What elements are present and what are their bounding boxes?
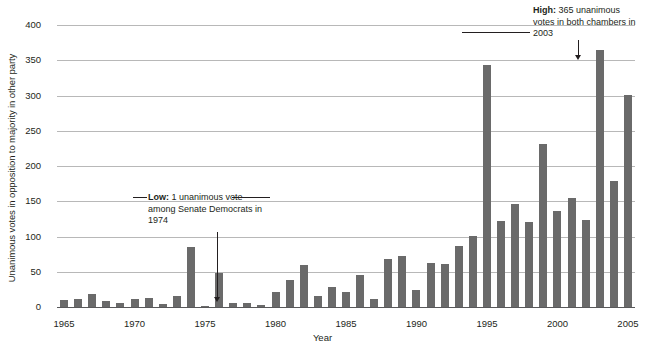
bar-1966 [74,299,82,307]
gridline-0 [57,307,635,308]
bar-1965 [60,300,68,307]
bar-1981 [286,280,294,307]
bar-1984 [328,287,336,307]
bar-2001 [568,198,576,307]
bar-1997 [511,204,519,307]
bar-1968 [102,301,110,307]
bar-2002 [582,220,590,307]
y-tick-0: 0 [1,302,41,312]
bar-1972 [159,304,167,307]
annotation-low-leader-right [232,197,270,198]
x-tick-2000: 2000 [537,318,577,329]
annotation-high-leader-left [462,32,530,33]
annotation-low-leader-stem [217,232,218,297]
annotation-low-label: Low: [148,192,169,202]
y-tick-200: 200 [1,161,41,171]
bar-2005 [624,95,632,307]
bar-1970 [131,299,139,307]
plot-area: 050100150200250300350400 196519701975198… [57,18,635,307]
bar-1989 [398,256,406,307]
bar-1974 [187,247,195,307]
annotation-high: High: 365 unanimous votes in both chambe… [533,5,641,40]
y-tick-50: 50 [1,267,41,277]
plot-inner: 050100150200250300350400 196519701975198… [57,25,635,307]
bar-1973 [173,296,181,307]
bar-1982 [300,265,308,307]
y-tick-150: 150 [1,196,41,206]
bar-1995 [483,65,491,307]
bar-1969 [116,303,124,307]
bar-2004 [610,181,618,307]
bar-1992 [441,264,449,307]
bar-series [57,25,635,307]
bar-1978 [243,303,251,307]
x-axis-title: Year [0,332,645,343]
bar-1991 [427,263,435,307]
bar-1994 [469,236,477,307]
bar-1986 [356,275,364,307]
x-tick-1985: 1985 [326,318,366,329]
bar-1990 [412,290,420,307]
bar-1987 [370,299,378,307]
bar-1983 [314,296,322,307]
bar-chart: Unanimous votes in opposition to majorit… [0,0,645,354]
x-tick-2005: 2005 [608,318,645,329]
bar-1971 [145,298,153,307]
x-tick-1975: 1975 [185,318,225,329]
y-tick-400: 400 [1,20,41,30]
bar-1967 [88,294,96,307]
annotation-high-arrow [575,55,581,60]
bar-2003 [596,50,604,307]
annotation-high-label: High: [533,5,556,15]
bar-1980 [272,292,280,307]
annotation-low-leader-left [133,197,147,198]
x-tick-1990: 1990 [396,318,436,329]
bar-1979 [257,305,265,307]
bar-1977 [229,303,237,307]
x-tick-1995: 1995 [467,318,507,329]
annotation-low-arrow [214,297,220,302]
bar-1996 [497,221,505,307]
bar-1999 [539,144,547,307]
y-tick-100: 100 [1,232,41,242]
y-tick-250: 250 [1,126,41,136]
bar-1975 [201,306,209,307]
bar-1988 [384,259,392,307]
bar-1985 [342,292,350,307]
x-tick-1970: 1970 [115,318,155,329]
bar-2000 [553,211,561,307]
y-tick-300: 300 [1,91,41,101]
x-tick-1980: 1980 [256,318,296,329]
bar-1998 [525,222,533,307]
bar-1993 [455,246,463,307]
y-tick-350: 350 [1,55,41,65]
x-tick-1965: 1965 [44,318,84,329]
